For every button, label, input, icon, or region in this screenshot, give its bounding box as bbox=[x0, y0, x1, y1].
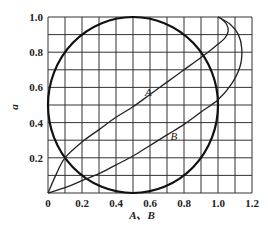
x-tick-label: 1.0 bbox=[211, 197, 225, 209]
x-tick-label: 0.4 bbox=[109, 197, 123, 209]
x-tick-label: 0.2 bbox=[75, 197, 89, 209]
chart: AB 00.20.40.60.81.01.2 0.20.40.60.81.0 A… bbox=[0, 0, 268, 234]
y-tick-labels: 0.20.40.60.81.0 bbox=[29, 11, 43, 164]
grid bbox=[48, 17, 252, 193]
y-tick-label: 0.6 bbox=[29, 81, 43, 93]
x-tick-label: 0.6 bbox=[143, 197, 157, 209]
x-tick-label: 0.8 bbox=[177, 197, 191, 209]
curve-label-A: A bbox=[144, 86, 152, 98]
x-tick-labels: 00.20.40.60.81.01.2 bbox=[45, 197, 259, 209]
y-axis-label: a bbox=[8, 104, 20, 110]
x-tick-label: 1.2 bbox=[245, 197, 259, 209]
x-tick-label: 0 bbox=[45, 197, 51, 209]
y-tick-label: 0.8 bbox=[29, 46, 43, 58]
y-tick-label: 0.2 bbox=[29, 152, 43, 164]
x-axis-label: A、B bbox=[128, 209, 155, 221]
curve-label-B: B bbox=[170, 130, 177, 142]
y-tick-label: 1.0 bbox=[29, 11, 43, 23]
y-tick-label: 0.4 bbox=[29, 117, 43, 129]
